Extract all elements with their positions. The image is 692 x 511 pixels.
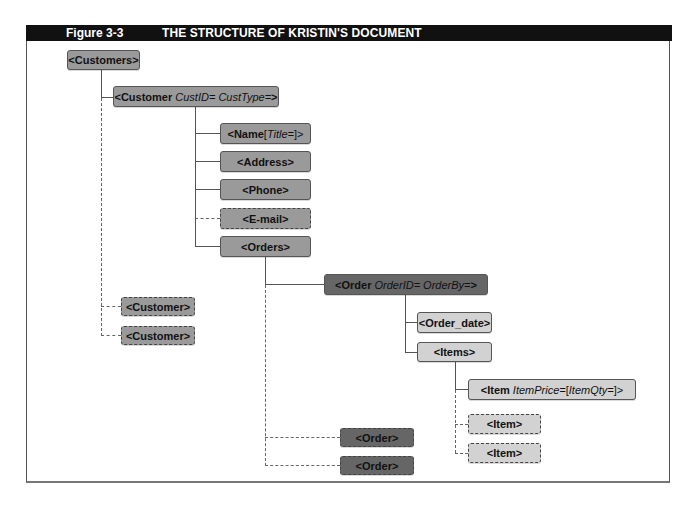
node-attributes: ItemPrice= [513,384,566,396]
optional-bracket: ]> [294,128,303,140]
node-attributes: OrderID= OrderBy= [375,279,471,291]
optional-connector [195,218,220,219]
optional-connector [101,335,121,336]
node-order-date: <Order_date> [417,312,492,333]
connector [405,352,417,353]
connector [195,161,220,162]
node-label: <Items> [434,346,476,358]
node-label: <Phone> [242,184,288,196]
node-item: <Item ItemPrice= [ItemQty=]> [468,379,636,400]
connector [101,70,102,97]
connector [455,362,456,389]
node-phone: <Phone> [220,179,311,200]
node-customer-repeat: <Customer> [121,326,195,345]
connector [195,107,196,247]
figure-header: Figure 3-3 THE STRUCTURE OF KRISTIN'S DO… [26,25,672,41]
figure-title: THE STRUCTURE OF KRISTIN'S DOCUMENT [162,25,422,41]
figure-label: Figure 3-3 [66,25,123,41]
node-attributes: CustID= CustType= [175,91,271,103]
node-orders: <Orders> [220,236,311,257]
node-label: <Customer> [126,301,190,313]
node-label: <Item> [487,447,522,459]
optional-connector [265,285,266,466]
node-label: <Address> [237,156,294,168]
node-email: <E-mail> [220,208,311,229]
node-label: <Order> [356,432,399,444]
optional-bracket: ]> [614,384,623,396]
optional-connector [455,453,468,454]
connector [455,389,468,390]
node-label: <Order> [356,460,399,472]
node-order: <Order OrderID= OrderBy=> [324,274,488,295]
node-items: <Items> [417,342,492,362]
connector [405,322,417,323]
optional-connector [455,390,456,453]
node-label-close: > [271,91,277,103]
node-optional-attributes: ItemQty= [569,384,614,396]
optional-connector [455,424,468,425]
optional-connector [265,465,340,466]
connector [265,257,266,284]
connector [195,133,220,134]
node-label: <E-mail> [243,213,289,225]
connector [195,246,220,247]
node-attributes: Title= [267,128,294,140]
optional-connector [265,437,340,438]
node-label: <Orders> [241,241,290,253]
connector [101,97,113,98]
node-label: <Name [227,128,263,140]
node-customers: <Customers> [67,50,140,70]
node-label: <Item [481,384,510,396]
node-name: <Name [Title=]> [220,123,311,144]
node-label: <Customers> [68,54,138,66]
node-order-repeat: <Order> [340,456,414,475]
node-label: <Item> [487,418,522,430]
node-order-repeat: <Order> [340,428,414,447]
node-address: <Address> [220,151,311,172]
node-item-repeat: <Item> [468,414,541,434]
connector [405,294,406,352]
node-customer: <Customer CustID= CustType=> [113,86,279,107]
node-label: <Customer> [126,330,190,342]
connector [195,189,220,190]
node-item-repeat: <Item> [468,443,541,463]
node-customer-repeat: <Customer> [121,297,195,316]
node-label: <Customer [114,91,172,103]
node-label: <Order_date> [419,317,491,329]
optional-connector [101,306,121,307]
node-label-close: > [471,279,477,291]
connector [265,284,324,285]
node-label: <Order [335,279,371,291]
optional-connector [101,98,102,336]
